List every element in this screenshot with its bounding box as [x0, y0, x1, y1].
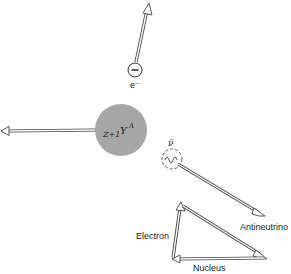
triangle-nucleus-label: Nucleus [193, 263, 226, 273]
nucleus-recoil-arrow [1, 127, 97, 136]
antineutrino-symbol: ν̄ [168, 138, 174, 148]
electron-momentum-arrow [136, 3, 152, 62]
nucleus-z-prefix: Z+1 [102, 130, 120, 139]
daughter-nucleus: Z+1 Y A [95, 104, 147, 156]
electron-symbol-label: e⁻ [130, 80, 140, 90]
triangle-nucleus-side [172, 255, 264, 263]
antineutrino-momentum-arrow [178, 164, 265, 216]
electron-particle [128, 63, 142, 77]
triangle-electron-side [173, 202, 185, 258]
triangle-electron-label: Electron [136, 231, 169, 241]
nucleus-mass-superscript: A [128, 122, 134, 130]
beta-decay-diagram: e⁻ Z+1 Y A ν̄ Antineutrino [0, 0, 291, 274]
antineutrino-label: Antineutrino [240, 222, 288, 232]
